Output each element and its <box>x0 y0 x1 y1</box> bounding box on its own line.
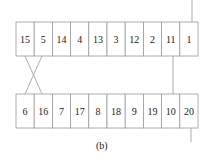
top-row-cell: 13 <box>89 22 107 56</box>
bottom-row-cell: 9 <box>125 94 143 128</box>
top-row-cell: 14 <box>52 22 70 56</box>
cell-label: 2 <box>150 34 155 45</box>
cell-label: 17 <box>75 106 85 117</box>
bottom-row-cell: 17 <box>71 94 89 128</box>
top-row: 155144133122111 <box>16 22 198 56</box>
bottom-row-cell: 19 <box>143 94 161 128</box>
top-row-cell: 11 <box>162 22 180 56</box>
bottom-row-cell: 8 <box>89 94 107 128</box>
cell-label: 5 <box>41 34 46 45</box>
bottom-row-cell: 6 <box>16 94 34 128</box>
bottom-row-cell: 7 <box>52 94 70 128</box>
top-row-cell: 15 <box>16 22 34 56</box>
top-row-cell: 3 <box>107 22 125 56</box>
bottom-row-cell: 20 <box>180 94 198 128</box>
cell-label: 13 <box>93 34 103 45</box>
figure-caption: (b) <box>96 140 108 151</box>
bottom-row-cell: 18 <box>107 94 125 128</box>
cell-label: 4 <box>77 34 82 45</box>
bottom-row: 6167178189191020 <box>16 94 198 128</box>
cell-label: 12 <box>129 34 139 45</box>
cell-label: 10 <box>166 106 176 117</box>
bottom-row-cell: 10 <box>162 94 180 128</box>
cell-label: 7 <box>59 106 64 117</box>
top-row-cell: 12 <box>125 22 143 56</box>
cell-label: 14 <box>57 34 67 45</box>
cell-label: 3 <box>114 34 119 45</box>
cell-label: 16 <box>38 106 48 117</box>
top-row-cell: 1 <box>180 22 198 56</box>
top-row-cell: 2 <box>143 22 161 56</box>
bottom-row-cell: 16 <box>34 94 52 128</box>
cell-label: 18 <box>111 106 121 117</box>
cell-label: 9 <box>132 106 137 117</box>
cell-label: 6 <box>23 106 28 117</box>
top-row-cell: 4 <box>71 22 89 56</box>
top-row-cell: 5 <box>34 22 52 56</box>
cell-label: 8 <box>95 106 100 117</box>
cell-label: 20 <box>184 106 194 117</box>
cell-label: 19 <box>148 106 158 117</box>
cell-label: 1 <box>186 34 191 45</box>
cell-label: 11 <box>166 34 176 45</box>
cell-label: 15 <box>20 34 30 45</box>
